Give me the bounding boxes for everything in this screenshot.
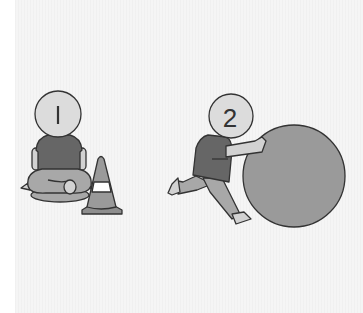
figure-2-front-foot [232, 212, 251, 224]
figure-1-legs [28, 169, 91, 193]
figure-2-front-leg [203, 178, 240, 219]
figure-1-front-foot [64, 180, 76, 194]
illustration-scene: 2 [0, 0, 363, 313]
figure-1 [21, 91, 97, 202]
figure-2-number-label: 2 [223, 103, 237, 133]
cone-band [92, 182, 111, 192]
figure-1-shirt [36, 135, 82, 172]
illustration-svg: 2 [0, 0, 363, 313]
figure-2-back-foot [168, 178, 180, 195]
